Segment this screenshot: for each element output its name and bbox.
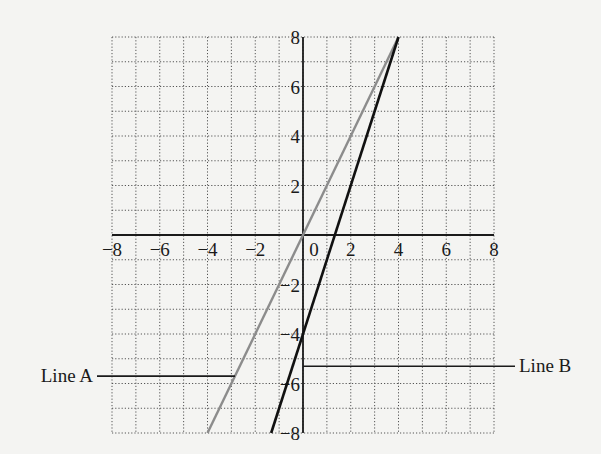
x-tick-label: 0	[309, 239, 319, 260]
y-tick-label: −8	[280, 423, 300, 444]
line-a-label: Line A	[41, 365, 94, 386]
x-tick-label: 4	[394, 239, 404, 260]
coordinate-plane-chart: −8−6−4−2024688642−2−4−6−8 Line A Line B	[0, 0, 601, 454]
x-tick-label: 6	[442, 239, 452, 260]
x-tick-label: −2	[245, 239, 265, 260]
x-tick-label: 2	[346, 239, 356, 260]
x-tick-label: −4	[197, 239, 218, 260]
x-tick-label: −6	[150, 239, 170, 260]
y-tick-label: −4	[280, 324, 301, 345]
y-tick-label: 8	[291, 27, 301, 48]
line-b-label: Line B	[519, 355, 571, 376]
y-tick-label: 6	[291, 77, 301, 98]
x-tick-label: −8	[102, 239, 122, 260]
y-tick-label: 4	[291, 126, 301, 147]
y-tick-label: 2	[291, 176, 301, 197]
x-tick-label: 8	[489, 239, 499, 260]
annotations: Line A Line B	[41, 355, 572, 386]
